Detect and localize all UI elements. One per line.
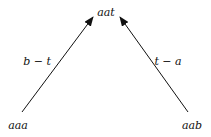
edge-right-label: t − a bbox=[154, 55, 181, 68]
node-top-label: aat bbox=[97, 6, 115, 19]
node-right-label: aab bbox=[182, 119, 202, 132]
diagram-canvas: aat aaa aab b − t t − a bbox=[0, 0, 211, 137]
node-left-label: aaa bbox=[8, 119, 28, 132]
edge-left-label: b − t bbox=[23, 55, 51, 68]
